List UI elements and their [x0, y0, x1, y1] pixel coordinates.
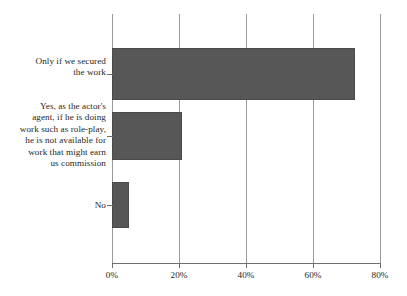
x-tick-0	[112, 263, 113, 268]
category-label-1-line-0: Yes, as the actor's	[8, 101, 106, 112]
bar-series-2	[112, 182, 129, 228]
x-tick-60	[313, 263, 314, 268]
category-label-1-line-1: agent, if he is doing	[8, 112, 106, 123]
bar-series-0	[112, 48, 355, 100]
x-tick-label-0: 0%	[90, 270, 134, 281]
category-label-1-line-3: he is not available for	[8, 135, 106, 146]
bar-chart: Only if we secured the work Yes, as the …	[0, 0, 407, 296]
x-tick-label-20: 20%	[157, 270, 201, 281]
x-tick-40	[246, 263, 247, 268]
category-label-0-line-1: the work	[8, 67, 106, 78]
y-tick-1	[107, 136, 113, 137]
category-label-1: Yes, as the actor's agent, if he is doin…	[8, 101, 106, 169]
x-tick-label-80: 80%	[358, 270, 402, 281]
category-label-1-line-2: work such as role-play,	[8, 124, 106, 135]
y-tick-2	[107, 205, 113, 206]
category-label-0: Only if we secured the work	[8, 56, 106, 79]
category-label-2: No	[8, 200, 106, 211]
x-tick-80	[380, 263, 381, 268]
y-tick-0	[107, 74, 113, 75]
x-tick-label-40: 40%	[224, 270, 268, 281]
plot-area	[112, 14, 380, 263]
category-label-0-line-0: Only if we secured	[8, 56, 106, 67]
x-tick-20	[179, 263, 180, 268]
category-label-1-line-5: us commission	[8, 158, 106, 169]
x-tick-label-60: 60%	[291, 270, 335, 281]
bar-series-1	[112, 112, 182, 160]
category-label-2-line-0: No	[8, 200, 106, 211]
gridline-80	[380, 14, 381, 263]
category-label-1-line-4: work that might earn	[8, 147, 106, 158]
